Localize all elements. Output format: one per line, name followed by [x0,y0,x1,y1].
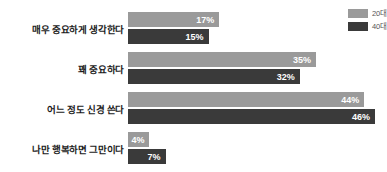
category-label: 나만 행복하면 그만이다 [0,132,124,165]
bar-20대-매우 중요하게 생각한다[interactable]: 17% [128,12,219,27]
chart-plot-area: 매우 중요하게 생각한다17%15%꽤 중요하다35%32%어느 정도 신경 쓴… [0,12,387,172]
category-label: 어느 정도 신경 쓴다 [0,92,124,125]
bar-value-label: 4% [131,135,144,145]
bar-value-label: 15% [186,32,204,42]
bar-group: 35%32% [128,52,387,85]
bar-group: 4%7% [128,132,387,165]
chart-group: 나만 행복하면 그만이다4%7% [0,132,387,165]
bar-value-label: 17% [196,15,214,25]
bar-chart: 20대 40대 매우 중요하게 생각한다17%15%꽤 중요하다35%32%어느… [0,0,387,172]
bar-40대-어느 정도 신경 쓴다[interactable]: 46% [128,109,375,124]
bar-20대-꽤 중요하다[interactable]: 35% [128,52,316,67]
bar-40대-꽤 중요하다[interactable]: 32% [128,69,300,84]
bar-20대-어느 정도 신경 쓴다[interactable]: 44% [128,92,364,107]
bar-row: 46% [128,109,387,124]
bar-value-label: 44% [341,95,359,105]
chart-group: 어느 정도 신경 쓴다44%46% [0,92,387,125]
bar-row: 4% [128,132,387,147]
bar-row: 32% [128,69,387,84]
bar-row: 15% [128,29,387,44]
bar-value-label: 7% [148,152,161,162]
bar-group: 44%46% [128,92,387,125]
bar-group: 17%15% [128,12,387,45]
category-label: 매우 중요하게 생각한다 [0,12,124,45]
bar-row: 44% [128,92,387,107]
bar-value-label: 32% [277,72,295,82]
bar-row: 7% [128,149,387,164]
chart-group: 꽤 중요하다35%32% [0,52,387,85]
bar-40대-나만 행복하면 그만이다[interactable]: 7% [128,149,166,164]
bar-20대-나만 행복하면 그만이다[interactable]: 4% [128,132,149,147]
bar-value-label: 35% [293,55,311,65]
bar-value-label: 46% [352,112,370,122]
category-label: 꽤 중요하다 [0,52,124,85]
chart-group: 매우 중요하게 생각한다17%15% [0,12,387,45]
bar-40대-매우 중요하게 생각한다[interactable]: 15% [128,29,209,44]
bar-row: 35% [128,52,387,67]
bar-row: 17% [128,12,387,27]
